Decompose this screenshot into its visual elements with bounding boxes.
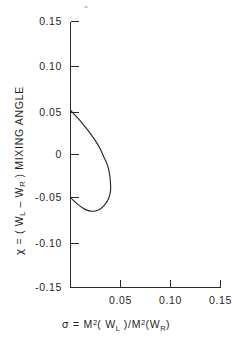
scan-speck: [85, 7, 88, 8]
y-axis-sub-left: L: [18, 211, 27, 215]
x-tick-label-0.15: 0.15: [196, 295, 232, 306]
x-axis-equals: =: [73, 318, 80, 330]
data-curve-allowed-region: [71, 110, 111, 211]
y-tick-marks: [71, 22, 79, 244]
x-axis-den-open: (W: [146, 318, 161, 330]
y-axis-equals: =: [13, 238, 25, 245]
y-axis-sub-right: R: [18, 181, 27, 187]
x-axis-den-close: ): [166, 318, 170, 330]
x-axis-num-base: M: [83, 318, 92, 330]
y-axis-close: ): [13, 173, 25, 181]
x-axis-num-close: ): [120, 318, 128, 330]
x-axis-title: σ = M2( WL )/M2(WR): [0, 319, 232, 332]
y-axis-symbol: χ: [13, 248, 25, 255]
x-axis-den-base: M: [132, 318, 141, 330]
y-axis-tail: MIXING ANGLE: [13, 86, 25, 170]
y-axis-open: ( W: [13, 216, 25, 234]
y-axis-title: χ = ( WL – WR ) MIXING ANGLE: [14, 0, 30, 341]
x-axis-num-open: ( W: [97, 318, 115, 330]
x-tick-label-0.10: 0.10: [146, 295, 195, 306]
y-axis-minus: – W: [13, 187, 25, 211]
x-tick-label-0.05: 0.05: [96, 295, 145, 306]
x-tick-marks: [121, 280, 221, 288]
figure-canvas: 0.15 0.10 0.05 0 -0.05 -0.10 -0.15 0.05 …: [0, 0, 232, 341]
